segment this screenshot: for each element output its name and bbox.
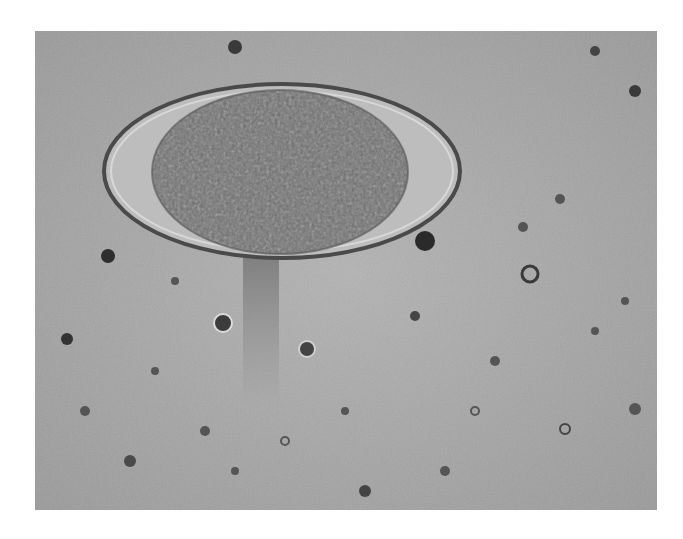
shadow-streak [243,256,279,406]
micrograph-photo [35,31,657,510]
parasite-egg [104,84,460,258]
